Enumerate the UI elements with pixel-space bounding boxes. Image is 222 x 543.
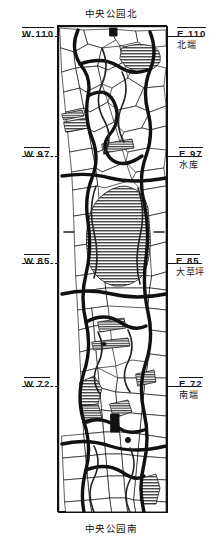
label-e97-sub: 水库 [179,160,203,170]
label-e72-code: E 72 [179,377,203,390]
label-e110: E 110 北端 [177,27,206,50]
label-e110-code: E 110 [177,27,206,40]
caption-park-south: 中央公园南 [0,521,222,535]
label-w110-code: W 110 [22,27,54,40]
label-e85-sub: 大草坪 [176,267,205,277]
park-map-frame [57,25,167,512]
label-e110-sub: 北端 [177,40,206,50]
label-e85: E 85 大草坪 [176,254,205,277]
label-w72-code: W 72 [24,377,50,390]
label-w72: W 72 [24,377,50,390]
landmark-marker [111,414,119,432]
label-w97: W 97 [24,147,50,160]
label-e97: E 97 水库 [179,147,203,170]
caption-park-north: 中央公园北 [0,6,222,20]
label-w97-code: W 97 [24,147,50,160]
park-map-drawing [58,26,168,513]
label-e72-sub: 南端 [179,390,203,400]
label-w85: W 85 [24,254,50,267]
label-e85-code: E 85 [176,254,200,267]
label-w110: W 110 [22,27,54,40]
label-e97-code: E 97 [179,147,203,160]
label-w85-code: W 85 [24,254,50,267]
label-e72: E 72 南端 [179,377,203,400]
